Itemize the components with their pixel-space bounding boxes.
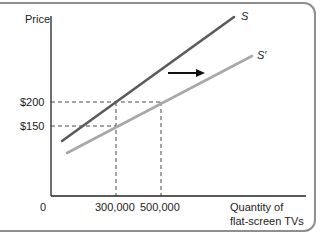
y-tick-150: $150 [20, 120, 44, 132]
curve-s-label: S [241, 10, 249, 22]
supply-shift-chart: Price $200 $150 0 300,000 500,000 Quanti… [0, 0, 326, 239]
dashed-guides [51, 102, 161, 196]
x-tick-300k: 300,000 [95, 201, 135, 213]
y-axis-label: Price [25, 13, 50, 25]
x-tick-500k: 500,000 [140, 201, 180, 213]
y-tick-200: $200 [20, 96, 44, 108]
curve-s-prime-label: S′ [257, 49, 267, 61]
x-axis-label-line2: flat-screen TVs [230, 215, 304, 227]
shift-arrow-icon [168, 69, 205, 77]
origin-label: 0 [40, 201, 46, 213]
x-axis-label-line1: Quantity of [230, 201, 284, 213]
